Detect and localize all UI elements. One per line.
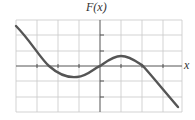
chart-title: F(x) [86, 0, 107, 15]
function-graph [0, 0, 195, 120]
x-axis-label: x [184, 58, 189, 73]
